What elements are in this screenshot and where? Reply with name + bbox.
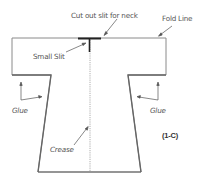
figure-id-label: (1-C) (162, 131, 178, 140)
slit-arrow (66, 44, 84, 52)
crease-arrow (74, 128, 87, 145)
neck-arrow (105, 19, 117, 34)
small-slit-label: Small Slit (33, 52, 65, 61)
fold-line-label: Fold Line (162, 14, 192, 23)
garment-pattern-diagram (0, 0, 203, 184)
crease-label: Crease (50, 145, 74, 154)
neck-slit-label: Cut out slit for neck (71, 11, 138, 20)
glue-left-label: Glue (12, 106, 28, 115)
glue-right-label: Glue (150, 106, 166, 115)
right-body-edge (128, 75, 166, 172)
left-body-edge (12, 75, 51, 172)
